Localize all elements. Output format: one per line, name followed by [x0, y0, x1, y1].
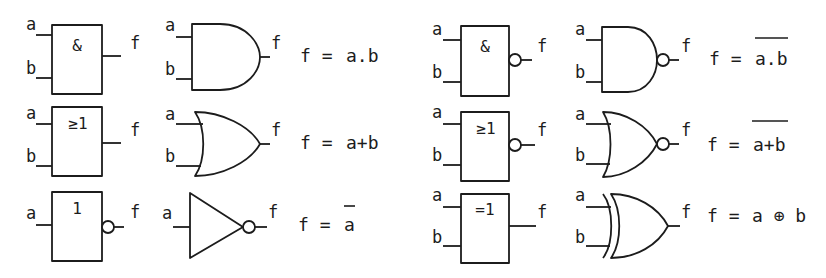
nand-equation: f = a.b	[709, 38, 788, 69]
and-symbol: &	[72, 36, 82, 55]
equation-lhs: f =	[300, 132, 333, 153]
inversion-bubble-icon	[657, 138, 669, 150]
nor-symbol: ≥1	[476, 119, 495, 138]
and-gate-iec: a b f &	[26, 14, 140, 94]
equation-rhs: a.b	[755, 48, 788, 69]
equation-rhs: a ⊕ b	[752, 205, 806, 226]
nand-gate-iec: a b f &	[432, 19, 547, 96]
xor-back-arc	[603, 194, 611, 258]
input-a-label: a	[575, 104, 585, 124]
input-b-label: b	[575, 62, 585, 82]
output-f-label: f	[681, 202, 691, 222]
equation-lhs: f =	[709, 48, 742, 69]
equation-lhs: f =	[707, 205, 740, 226]
equation-lhs: f =	[300, 45, 333, 66]
or-gate-iec: a b f ≥1	[26, 103, 140, 176]
input-a-label: a	[26, 14, 36, 34]
output-f-label: f	[681, 36, 691, 56]
xor-gate-iec: a b f =1	[432, 185, 547, 263]
logic-gates-diagram: a b f & a b f f = a.b a b f ≥1 a b f f =	[0, 0, 826, 278]
and-ansi-shape	[192, 24, 260, 90]
input-b-label: b	[575, 227, 585, 247]
not-symbol: 1	[72, 199, 82, 218]
input-a-label: a	[162, 203, 172, 223]
or-equation: f = a+b	[300, 132, 379, 153]
nand-symbol: &	[480, 37, 490, 56]
not-ansi-triangle	[190, 193, 243, 258]
output-f-label: f	[130, 33, 140, 53]
output-f-label: f	[271, 120, 281, 140]
input-b-label: b	[26, 146, 36, 166]
input-b-label: b	[432, 227, 442, 247]
input-a-label: a	[432, 185, 442, 205]
nor-gate-iec: a b f ≥1	[432, 102, 547, 181]
inversion-bubble-icon	[243, 221, 255, 233]
output-f-label: f	[130, 202, 140, 222]
nor-ansi-shape	[603, 112, 657, 177]
input-a-label: a	[432, 19, 442, 39]
output-f-label: f	[130, 120, 140, 140]
equation-lhs: f =	[298, 214, 331, 235]
output-f-label: f	[271, 33, 281, 53]
input-a-label: a	[165, 15, 175, 35]
input-a-label: a	[432, 102, 442, 122]
xor-symbol: =1	[475, 200, 494, 219]
equation-rhs: a.b	[346, 45, 379, 66]
and-gate-ansi: a b f	[165, 15, 281, 90]
xor-equation: f = a ⊕ b	[707, 205, 806, 226]
equation-rhs: a+b	[753, 134, 786, 155]
input-a-label: a	[575, 19, 585, 39]
or-ansi-shape	[195, 112, 260, 176]
xor-gate-ansi: a b f	[575, 185, 691, 258]
inversion-bubble-icon	[509, 139, 521, 151]
input-b-label: b	[575, 145, 585, 165]
inversion-bubble-icon	[657, 54, 669, 66]
input-a-label: a	[26, 203, 36, 223]
input-b-label: b	[26, 58, 36, 78]
input-b-label: b	[432, 145, 442, 165]
input-a-label: a	[26, 103, 36, 123]
nor-gate-ansi: a b f	[575, 104, 691, 177]
output-f-label: f	[268, 202, 278, 222]
or-gate-ansi: a b f	[165, 104, 281, 176]
inversion-bubble-icon	[509, 54, 521, 66]
nand-ansi-shape	[602, 27, 657, 92]
equation-lhs: f =	[707, 134, 740, 155]
equation-rhs: a+b	[346, 132, 379, 153]
inversion-bubble-icon	[102, 221, 114, 233]
input-a-label: a	[575, 185, 585, 205]
and-equation: f = a.b	[300, 45, 379, 66]
input-b-label: b	[165, 59, 175, 79]
equation-rhs: a	[344, 214, 355, 235]
input-b-label: b	[432, 62, 442, 82]
not-gate-iec: a f 1	[26, 192, 140, 261]
input-b-label: b	[165, 146, 175, 166]
output-f-label: f	[537, 36, 547, 56]
nor-equation: f = a+b	[707, 121, 788, 155]
nand-gate-ansi: a b f	[575, 19, 691, 92]
xor-ansi-shape	[611, 194, 668, 258]
output-f-label: f	[681, 120, 691, 140]
input-a-label: a	[165, 104, 175, 124]
output-f-label: f	[537, 202, 547, 222]
not-equation: f = a	[298, 206, 355, 235]
not-gate-ansi: a f	[162, 193, 278, 258]
output-f-label: f	[537, 120, 547, 140]
or-symbol: ≥1	[68, 114, 87, 133]
